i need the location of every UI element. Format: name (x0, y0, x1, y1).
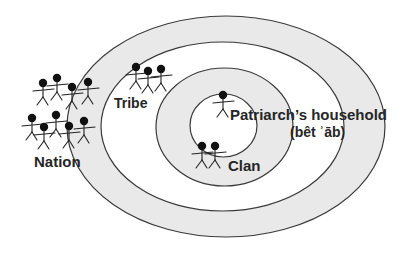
nation-label: Nation (34, 153, 81, 170)
household-label: Patriarch’s household (230, 106, 387, 123)
person-icon (33, 79, 54, 105)
kinship-diagram: Nation Tribe Clan Patriarch’s household … (0, 0, 406, 254)
clan-label: Clan (228, 157, 261, 174)
person-icon (34, 123, 55, 149)
person-icon (47, 74, 68, 100)
tribe-label: Tribe (114, 95, 148, 111)
household-transliteration: (bêt ʾāb) (290, 124, 345, 140)
